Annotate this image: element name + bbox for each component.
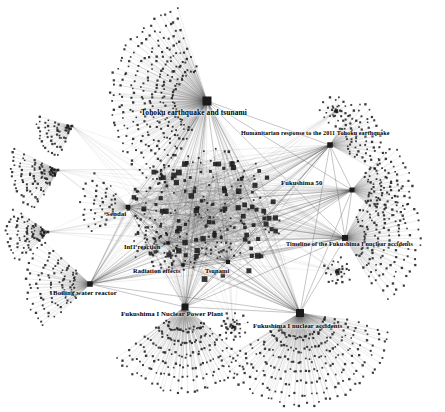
core-node — [134, 215, 136, 217]
left-fan-b-leaf-node — [33, 237, 35, 239]
tohoku-leaf-node — [153, 139, 155, 141]
left-fan-c-leaf-node — [57, 154, 59, 156]
accidents-leaf-node — [263, 374, 265, 376]
left-fan-b-anchor-node — [47, 231, 50, 234]
tohoku-leaf-node — [149, 34, 151, 36]
timeline-leaf-node — [363, 241, 365, 243]
tohoku-leaf-node — [168, 38, 170, 40]
accidents-leaf-node — [311, 393, 313, 395]
fukushima50-leaf-node — [367, 179, 369, 181]
core-node — [154, 250, 158, 254]
left-fan-b-leaf-node — [35, 223, 37, 225]
timeline-leaf-node — [417, 212, 419, 214]
tohoku-leaf-node — [163, 164, 165, 166]
accidents-leaf-node — [379, 362, 381, 364]
accidents-leaf-node — [374, 368, 376, 370]
tohoku-leaf-node — [172, 108, 174, 110]
bwr-leaf-node — [57, 262, 59, 264]
powerplant-leaf-node — [160, 347, 162, 349]
timeline-leaf-node — [418, 229, 420, 231]
tohoku-leaf-node — [176, 43, 178, 45]
left-fan-a-leaf-node — [41, 176, 43, 178]
bwr-leaf-node — [42, 299, 44, 301]
powerplant-leaf-node — [200, 337, 202, 339]
accidents-leaf-node — [332, 347, 334, 349]
timeline-leaf-node — [382, 255, 384, 257]
tsunami2-leaf-node — [217, 257, 219, 259]
accidents-leaf-node — [323, 392, 325, 394]
tohoku-leaf-node — [151, 93, 153, 95]
core-node — [135, 197, 138, 200]
core-node — [141, 206, 146, 211]
accidents-leaf-node — [312, 337, 314, 339]
tohoku-leaf-node — [157, 40, 159, 42]
left-fan-c-leaf-node — [56, 127, 58, 129]
humanitarian-leaf-node — [381, 130, 383, 132]
powerplant-leaf-node — [189, 340, 191, 342]
tohoku-leaf-node — [135, 117, 137, 119]
right-knot-leaf-node — [332, 114, 334, 116]
tohoku-leaf-node — [143, 120, 145, 122]
core-node — [270, 227, 274, 231]
core-node — [161, 213, 163, 215]
fukushima50-leaf-node — [380, 185, 382, 187]
tohoku-leaf-node — [167, 154, 169, 156]
left-fan-b-leaf-node — [17, 242, 19, 244]
bwr-leaf-node — [40, 321, 42, 323]
tohoku-leaf-node — [180, 121, 182, 123]
tohoku-leaf-node — [111, 100, 113, 102]
left-fan-c-leaf-node — [39, 130, 41, 132]
tohoku-leaf-node — [122, 150, 124, 152]
fukushima50-leaf-node — [379, 163, 381, 165]
bwr-leaf-node — [44, 264, 46, 266]
tohoku-leaf-node — [144, 57, 146, 59]
left-fan-b-leaf-node — [9, 237, 11, 239]
left-fan-c-leaf-node — [53, 125, 55, 127]
bwr-leaf-node — [59, 281, 61, 283]
timeline-leaf-node — [369, 258, 371, 260]
core-node — [189, 193, 195, 199]
accidents-leaf-node — [265, 361, 267, 363]
tsunami2-leaf-node — [210, 253, 212, 255]
mid-knot-leaf-node — [331, 264, 333, 266]
powerplant-leaf-node — [192, 351, 194, 353]
bwr-leaf-node — [47, 312, 49, 314]
humanitarian-leaf-node — [380, 141, 382, 143]
bwr-leaf-node — [57, 304, 59, 306]
sendai-leaf-node — [112, 211, 114, 213]
fukushima50-leaf-node — [397, 196, 399, 198]
left-fan-b-leaf-node — [13, 216, 15, 218]
timeline-leaf-node — [360, 253, 362, 255]
right-knot-leaf-node — [345, 105, 347, 107]
core-node — [163, 209, 168, 214]
tohoku-leaf-node — [151, 114, 153, 116]
bottom-knot-leaf-node — [238, 323, 240, 325]
left-fan-b-leaf-node — [24, 235, 26, 237]
core-node — [230, 225, 232, 227]
fukushima50-leaf-node — [369, 181, 371, 183]
powerplant-leaf-node — [242, 366, 244, 368]
tohoku-leaf-node — [131, 163, 133, 165]
accidents-leaf-node — [354, 330, 356, 332]
mid-knot-leaf-node — [338, 268, 340, 270]
timeline-leaf-node — [375, 279, 377, 281]
timeline-leaf-node — [373, 222, 375, 224]
radiation-leaf-node — [168, 266, 170, 268]
bwr-leaf-node — [62, 270, 64, 272]
powerplant-leaf-node — [185, 357, 187, 359]
humanitarian-leaf-node — [349, 153, 351, 155]
accidents-leaf-node — [281, 331, 283, 333]
powerplant-leaf-node — [142, 364, 144, 366]
accidents-leaf-node — [285, 383, 287, 385]
accidents-leaf-node — [278, 356, 280, 358]
accidents-leaf-node — [298, 405, 300, 407]
tohoku-leaf-node — [111, 71, 113, 73]
bwr-leaf-node — [65, 295, 67, 297]
accidents-leaf-node — [283, 344, 285, 346]
tohoku-leaf-node — [175, 88, 177, 90]
core-node — [249, 247, 253, 251]
bwr-leaf-node — [37, 317, 39, 319]
core-node — [259, 197, 261, 199]
fukushima50-leaf-node — [364, 176, 366, 178]
humanitarian-leaf-node — [378, 146, 380, 148]
